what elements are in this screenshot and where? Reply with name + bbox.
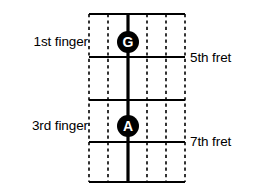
label-7th-fret: 7th fret xyxy=(190,135,231,149)
label-1st-finger: 1st finger xyxy=(33,35,88,49)
label-5th-fret: 5th fret xyxy=(190,51,231,65)
fretboard-diagram: G A 1st finger 3rd finger 5th fret 7th f… xyxy=(0,0,256,194)
note-marker-g: G xyxy=(117,31,139,53)
fretboard-graphic: G A xyxy=(0,0,256,194)
note-marker-a: A xyxy=(117,115,139,137)
note-marker-g-label: G xyxy=(123,34,134,50)
label-3rd-finger: 3rd finger xyxy=(32,119,88,133)
note-marker-a-label: A xyxy=(123,118,133,134)
